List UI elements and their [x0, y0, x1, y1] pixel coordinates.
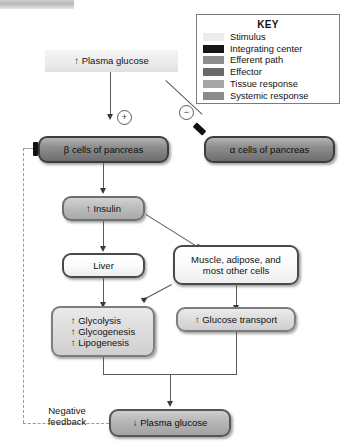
node-label: ↑ Plasma glucose	[74, 55, 148, 66]
feedback-line-left	[23, 148, 24, 423]
node-liver: Liver	[62, 253, 145, 278]
node-label: ↓ Plasma glucose	[133, 417, 207, 428]
arrowhead-stimulus-to-beta	[107, 114, 113, 120]
node-plasma-glucose-decrease: ↓ Plasma glucose	[109, 409, 231, 437]
key-title: KEY	[203, 19, 333, 30]
key-swatch-systemic-response	[203, 92, 224, 100]
key-label-efferent-path: Efferent path	[230, 55, 283, 65]
arrowhead-beta-to-insulin	[100, 188, 106, 194]
key-label-tissue-response: Tissue response	[230, 79, 298, 89]
negative-feedback-line1: Negative	[31, 405, 103, 416]
node-insulin-increase: ↑ Insulin	[62, 196, 145, 221]
connector-metabolism-down	[103, 357, 104, 374]
node-label: Muscle, adipose, and most other cells	[180, 254, 292, 276]
key-label-integrating-center: Integrating center	[230, 44, 302, 54]
negative-feedback-line2: feedback	[31, 416, 103, 427]
key-entry-integrating-center: Integrating center	[203, 43, 333, 55]
arrowhead-insulin-to-liver	[100, 246, 106, 252]
key-label-systemic-response: Systemic response	[230, 91, 309, 101]
node-muscle-adipose-other-cells: Muscle, adipose, and most other cells	[173, 245, 299, 285]
connector-merge-to-plasma-glucose	[170, 374, 171, 403]
key-entry-efferent-path: Efferent path	[203, 55, 333, 67]
scan-artifact	[0, 0, 74, 9]
connector-liver-to-metabolism	[103, 278, 104, 304]
negative-feedback-label: Negative feedback	[31, 405, 103, 428]
sign-inhibitory-alpha: −	[179, 105, 194, 120]
sign-stimulatory-beta: +	[117, 110, 132, 125]
key-label-stimulus: Stimulus	[230, 32, 266, 42]
key-swatch-integrating-center	[203, 45, 224, 53]
key-entry-tissue-response: Tissue response	[203, 78, 333, 90]
inhibition-bar-beta	[33, 142, 38, 156]
node-glucose-transport-increase: ↑ Glucose transport	[176, 307, 296, 332]
connector-muscle-to-glucose-transport	[236, 285, 237, 307]
sign-symbol: +	[122, 113, 127, 122]
connector-stimulus-to-beta	[110, 72, 111, 116]
diagram-canvas: KEY Stimulus Integrating center Efferent…	[0, 0, 346, 448]
key-label-effector: Effector	[230, 67, 262, 77]
key-swatch-effector	[203, 68, 224, 76]
key-entry-effector: Effector	[203, 66, 333, 78]
arrowhead-merge-to-plasma-glucose	[167, 401, 173, 407]
node-label: ↑ Glucose transport	[195, 314, 277, 325]
key-swatch-tissue-response	[203, 80, 224, 88]
node-hepatic-metabolism: ↑ Glycolysis ↑ Glycogenesis ↑ Lipogenesi…	[51, 306, 155, 357]
node-label-lipogenesis: ↑ Lipogenesis	[71, 337, 135, 348]
node-label: β cells of pancreas	[64, 144, 143, 155]
node-label-glycolysis: ↑ Glycolysis	[71, 315, 135, 326]
key-swatch-stimulus	[203, 33, 224, 41]
node-label: α cells of pancreas	[230, 144, 309, 155]
node-beta-cells-of-pancreas: β cells of pancreas	[38, 136, 169, 163]
node-label: Liver	[93, 260, 114, 271]
connector-glucose-transport-down	[236, 332, 237, 374]
key-legend: KEY Stimulus Integrating center Efferent…	[196, 14, 340, 104]
node-plasma-glucose-increase: ↑ Plasma glucose	[45, 50, 178, 72]
key-entry-stimulus: Stimulus	[203, 31, 333, 43]
key-entry-systemic-response: Systemic response	[203, 90, 333, 102]
sign-symbol: −	[184, 108, 189, 117]
connector-beta-to-insulin	[103, 163, 104, 190]
key-swatch-efferent-path	[203, 56, 224, 64]
connector-insulin-to-liver	[103, 221, 104, 248]
feedback-line-top	[23, 148, 33, 149]
node-label-glycogenesis: ↑ Glycogenesis	[71, 326, 135, 337]
connector-insulin-to-muscle	[145, 214, 199, 248]
node-label: ↑ Insulin	[86, 203, 121, 214]
inhibition-bar-alpha	[193, 122, 207, 135]
node-alpha-cells-of-pancreas: α cells of pancreas	[204, 136, 335, 163]
